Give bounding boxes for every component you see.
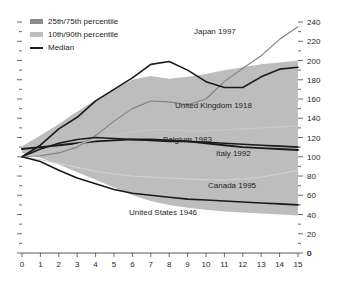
legend-label-median: Median [48,43,74,52]
y-tick-label: 0 [307,249,312,258]
x-tick-label: 3 [75,260,80,269]
legend-swatch-median [30,47,43,49]
x-tick-label: 7 [149,260,154,269]
annotation-united-kingdom-1918: United Kingdom 1918 [175,101,252,110]
annotation-japan-1997: Japan 1997 [194,27,236,36]
y-tick-label: 200 [307,57,321,66]
x-tick-label: 14 [275,260,284,269]
x-tick-label: 9 [185,260,190,269]
y-tick-label: 120 [307,134,321,143]
band-10th-90th-percentile [22,61,298,216]
annotation-belgium-1983: Belgium 1983 [163,135,212,144]
x-tick-label: 10 [202,260,211,269]
legend-swatch-10-90 [30,32,43,37]
x-tick-label: 6 [130,260,135,269]
legend-label-10-90: 10th/90th percentile [48,30,118,39]
annotation-canada-1995: Canada 1995 [208,181,256,190]
legend-label-25-75: 25th/75th percentile [48,17,118,26]
x-tick-label: 8 [167,260,172,269]
fan-chart: 0204060801001201401601802002202400 01234… [0,0,340,290]
x-tick-label: 1 [38,260,43,269]
y-tick-label: 20 [307,230,316,239]
y-tick-label: 80 [307,172,316,181]
x-tick-label: 15 [294,260,303,269]
x-tick-label: 5 [112,260,117,269]
y-tick-label: 40 [307,211,316,220]
legend-item-median: Median [30,42,118,53]
x-tick-label: 2 [57,260,62,269]
x-tick-label: 13 [257,260,266,269]
axis-bottom [22,253,298,257]
y-tick-label: 160 [307,95,321,104]
legend-item-10-90: 10th/90th percentile [30,29,118,40]
plot-bands [22,61,298,216]
y-tick-labels: 0204060801001201401601802002202400 [307,18,321,258]
axis-right [298,22,303,253]
y-tick-label: 240 [307,18,321,27]
legend-item-25-75: 25th/75th percentile [30,16,118,27]
x-tick-label: 4 [93,260,98,269]
chart-legend: 25th/75th percentile 10th/90th percentil… [30,16,118,53]
y-tick-label: 180 [307,76,321,85]
x-tick-label: 0 [20,260,25,269]
x-tick-label: 12 [238,260,247,269]
y-tick-label: 100 [307,153,321,162]
axis-left [17,22,22,253]
y-tick-label: 140 [307,114,321,123]
y-tick-label: 60 [307,191,316,200]
y-tick-label: 220 [307,37,321,46]
x-tick-labels: 0123456789101112131415 [20,260,303,269]
annotation-italy-1992: Italy 1992 [216,149,251,158]
annotation-united-states-1946: United States 1946 [129,208,197,217]
legend-swatch-25-75 [30,19,43,24]
x-tick-label: 11 [220,260,229,269]
